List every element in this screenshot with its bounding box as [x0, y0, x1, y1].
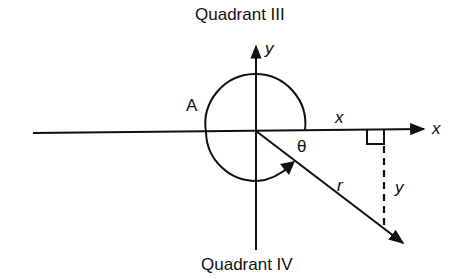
y-axis-label: y — [265, 40, 274, 57]
x-axis-label: x — [432, 120, 441, 137]
diagram-canvas — [0, 0, 459, 279]
opposite-side-label: y — [395, 179, 404, 196]
quadrant-top-label: Quadrant III — [195, 6, 285, 23]
arc-label-a: A — [186, 97, 197, 114]
hypotenuse-label: r — [337, 177, 343, 194]
ray-r — [256, 131, 403, 243]
angle-theta-label: θ — [297, 138, 306, 155]
right-angle-marker — [367, 130, 384, 144]
adjacent-side-label: x — [335, 109, 344, 126]
x-axis-line — [33, 129, 424, 133]
quadrant-bottom-label: Quadrant IV — [201, 256, 293, 273]
